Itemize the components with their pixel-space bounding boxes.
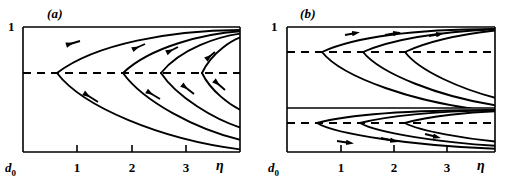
panel-a: (a) 1 (0, 0, 253, 188)
panel-b-x-variable-label: η (477, 158, 485, 174)
panel-a-ticks (77, 145, 186, 152)
panel-b-ticks (341, 145, 447, 152)
panel-a-frame (23, 27, 240, 152)
panel-a-origin-label: d0 (5, 160, 16, 178)
panel-b-origin-sub: 0 (275, 168, 280, 178)
panel-a-x-variable-label: η (216, 158, 224, 174)
panel-b-plot (253, 0, 506, 188)
panel-a-tick-label-1: 1 (67, 160, 87, 176)
panel-b-tick-label-2: 2 (384, 160, 404, 176)
panel-a-tick-label-2: 2 (122, 160, 142, 176)
panel-a-tick-label-3: 3 (176, 160, 196, 176)
panel-a-origin-sub: 0 (12, 168, 17, 178)
phase-portrait-figure: (a) 1 (0, 0, 507, 188)
panel-b-tick-label-1: 1 (331, 160, 351, 176)
panel-b-lower-trajectories (317, 110, 500, 149)
panel-b-origin-label: d0 (268, 160, 279, 178)
panel-a-trajectories (57, 30, 245, 150)
panel-b-tick-label-3: 3 (437, 160, 457, 176)
panel-b: (b) 1 (253, 0, 506, 188)
panel-b-upper-trajectories (322, 29, 500, 112)
